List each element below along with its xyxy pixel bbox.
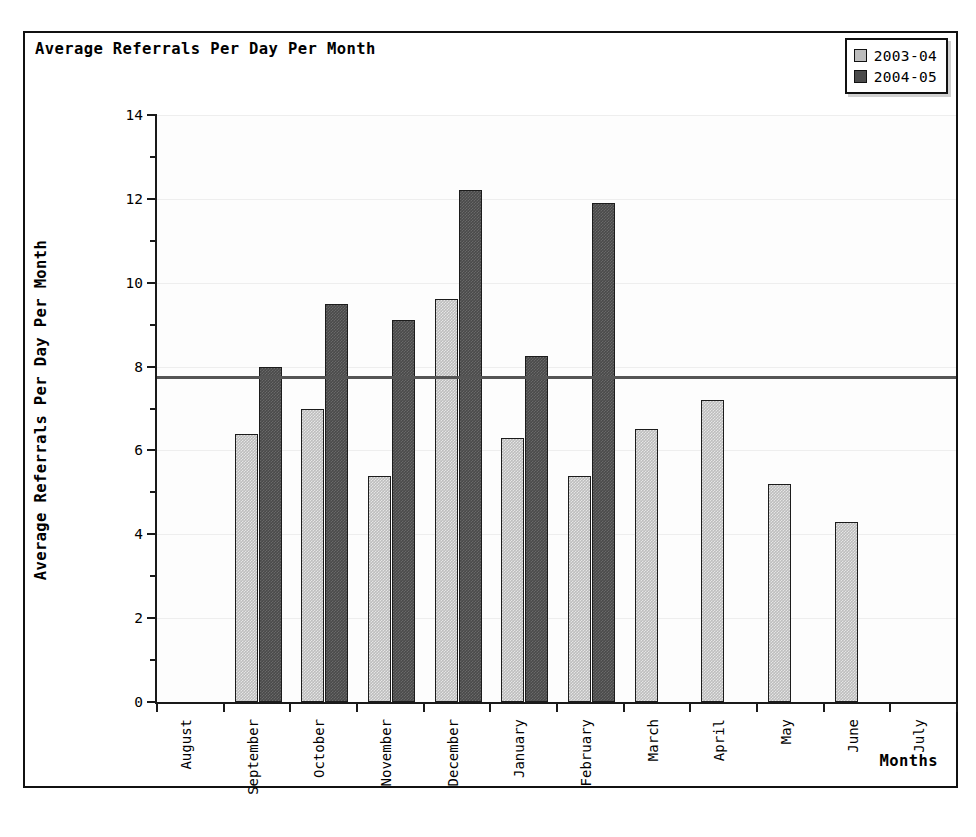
x-tick-label: March xyxy=(645,719,661,761)
x-tick xyxy=(956,703,958,712)
y-tick-minor xyxy=(150,156,156,158)
y-tick-major xyxy=(147,366,156,368)
x-axis-title: Months xyxy=(880,752,938,770)
bar xyxy=(701,400,724,702)
x-tick xyxy=(823,703,825,712)
y-tick-minor xyxy=(150,659,156,661)
reference-line xyxy=(156,376,956,379)
gridline xyxy=(156,199,956,200)
y-tick-label: 6 xyxy=(134,442,143,458)
chart-root: Average Referrals Per Day Per Month 2003… xyxy=(0,0,976,837)
bar xyxy=(301,409,324,703)
bar xyxy=(235,434,258,702)
y-tick-major xyxy=(147,282,156,284)
bar xyxy=(768,484,791,702)
y-tick-label: 10 xyxy=(126,275,143,291)
plot-area: 02468101214 AugustSeptemberOctoberNovemb… xyxy=(156,115,956,702)
bar xyxy=(525,356,548,702)
x-tick-label: February xyxy=(578,719,594,786)
y-tick-label: 2 xyxy=(134,610,143,626)
y-tick-minor xyxy=(150,408,156,410)
x-tick xyxy=(889,703,891,712)
bar xyxy=(368,476,391,702)
bar xyxy=(592,203,615,702)
y-tick-minor xyxy=(150,575,156,577)
chart-legend: 2003-04 2004-05 xyxy=(845,38,948,94)
y-tick-label: 12 xyxy=(126,191,143,207)
bar xyxy=(635,429,658,702)
y-tick-minor xyxy=(150,324,156,326)
bar xyxy=(835,522,858,702)
legend-item-2003-04: 2003-04 xyxy=(854,45,937,66)
x-tick xyxy=(756,703,758,712)
y-tick-major xyxy=(147,114,156,116)
legend-label-series-0: 2003-04 xyxy=(874,48,937,64)
legend-item-2004-05: 2004-05 xyxy=(854,66,937,87)
y-tick-major xyxy=(147,701,156,703)
x-tick-label: October xyxy=(311,719,327,778)
gridline xyxy=(156,115,956,116)
x-tick xyxy=(289,703,291,712)
gridline xyxy=(156,283,956,284)
x-tick xyxy=(689,703,691,712)
x-tick-label: May xyxy=(778,719,794,744)
bar xyxy=(259,367,282,702)
bar xyxy=(501,438,524,702)
y-tick-label: 14 xyxy=(126,107,143,123)
legend-label-series-1: 2004-05 xyxy=(874,69,937,85)
x-tick-label: November xyxy=(378,719,394,786)
y-tick-major xyxy=(147,449,156,451)
y-tick-label: 4 xyxy=(134,526,143,542)
bar xyxy=(459,190,482,702)
y-tick-minor xyxy=(150,240,156,242)
x-tick xyxy=(156,703,158,712)
x-tick-label: January xyxy=(511,719,527,778)
y-tick-major xyxy=(147,198,156,200)
y-tick-label: 8 xyxy=(134,359,143,375)
x-tick xyxy=(223,703,225,712)
y-axis-title: Average Referrals Per Day Per Month xyxy=(32,239,50,580)
x-tick-label: June xyxy=(845,719,861,753)
x-tick-label: April xyxy=(711,719,727,761)
y-tick-label: 0 xyxy=(134,694,143,710)
x-tick xyxy=(423,703,425,712)
x-tick-label: August xyxy=(178,719,194,770)
x-tick-label: September xyxy=(245,719,261,795)
y-tick-minor xyxy=(150,491,156,493)
x-tick xyxy=(489,703,491,712)
chart-title: Average Referrals Per Day Per Month xyxy=(35,40,376,58)
x-tick-label: December xyxy=(445,719,461,786)
x-tick xyxy=(356,703,358,712)
y-tick-major xyxy=(147,617,156,619)
figure-frame: Average Referrals Per Day Per Month 2003… xyxy=(23,31,958,788)
x-tick xyxy=(623,703,625,712)
legend-swatch-series-0 xyxy=(854,49,867,62)
legend-swatch-series-1 xyxy=(854,70,867,83)
x-tick-label: July xyxy=(911,719,927,753)
bar xyxy=(568,476,591,702)
x-tick xyxy=(556,703,558,712)
bar xyxy=(325,304,348,702)
bar xyxy=(435,299,458,702)
y-tick-major xyxy=(147,533,156,535)
